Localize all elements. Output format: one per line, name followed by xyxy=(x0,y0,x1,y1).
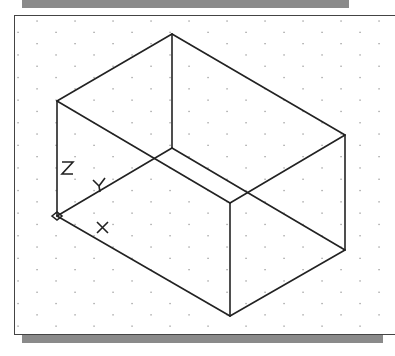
ucs-icon xyxy=(52,162,108,233)
isometric-box xyxy=(57,34,345,316)
edge-bottom-left-front xyxy=(57,216,230,316)
edge-left-front xyxy=(57,101,230,203)
edge-bottom-right-back xyxy=(172,148,345,250)
edge-top-right xyxy=(172,34,345,135)
edge-bottom-left-back xyxy=(57,148,172,216)
z-axis-letter-glyph xyxy=(62,162,73,174)
edge-bottom-right-front xyxy=(230,250,345,316)
edge-top-left xyxy=(57,34,172,101)
y-axis-letter-glyph xyxy=(93,178,105,192)
x-axis-letter-glyph xyxy=(97,222,108,233)
